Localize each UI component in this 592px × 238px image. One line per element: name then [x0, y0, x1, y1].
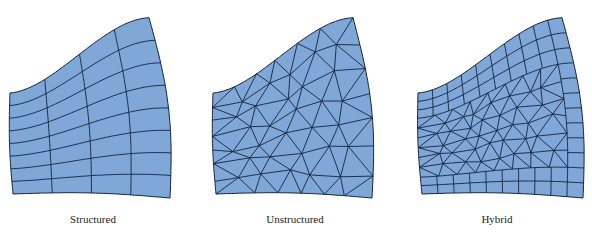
- hybrid-label: Hybrid: [397, 213, 592, 225]
- structured-label: Structured: [0, 213, 193, 225]
- structured-mesh-graphic: [0, 0, 200, 210]
- mesh-domain-fill: [418, 18, 584, 198]
- panel-structured: Structured: [0, 0, 200, 238]
- hybrid-mesh-graphic: [392, 0, 592, 210]
- panel-unstructured: Unstructured: [200, 0, 392, 238]
- mesh-domain-fill: [9, 18, 171, 198]
- unstructured-label: Unstructured: [199, 213, 391, 225]
- unstructured-mesh-graphic: [200, 0, 400, 210]
- panel-hybrid: Hybrid: [392, 0, 592, 238]
- mesh-comparison-figure: Structured Unstructured Hybrid: [0, 0, 592, 238]
